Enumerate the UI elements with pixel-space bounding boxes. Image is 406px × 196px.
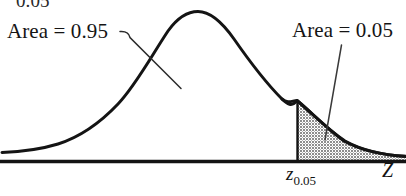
left-area-label: Area = 0.95 <box>7 21 108 42</box>
clipped-top-text: 0.05 <box>16 0 50 10</box>
shaded-tail-region <box>297 101 406 162</box>
right-area-label: Area = 0.05 <box>292 20 393 41</box>
critical-value-symbol: z <box>286 163 294 184</box>
right-leader-line <box>325 45 342 140</box>
normal-curve-figure: 0.05 Area = 0.95 Area = 0.05 z0.05 Z <box>0 0 406 196</box>
critical-value-axis-label: z0.05 <box>286 164 316 187</box>
z-axis-name-label: Z <box>382 160 393 180</box>
critical-value-subscript: 0.05 <box>294 173 316 188</box>
